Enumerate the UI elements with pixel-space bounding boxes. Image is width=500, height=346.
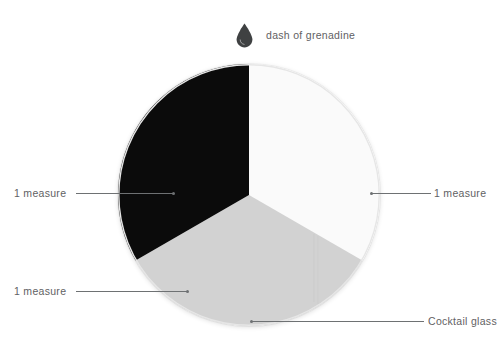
- leader-dot-black-segment: [172, 192, 175, 195]
- callout-label-cocktail-glass: Cocktail glass: [428, 315, 497, 327]
- leader-line-white-segment: [371, 193, 431, 194]
- cocktail-recipe-diagram: dash of grenadine 1 measure 1 measure 1 …: [0, 0, 500, 346]
- leader-line-gray-segment: [76, 291, 188, 292]
- droplet-label: dash of grenadine: [266, 29, 355, 41]
- pie-chart: [118, 64, 380, 326]
- callout-label-black-segment: 1 measure: [14, 187, 66, 199]
- leader-dot-white-segment: [370, 192, 373, 195]
- leader-dot-gray-segment: [186, 290, 189, 293]
- callout-label-gray-segment: 1 measure: [14, 285, 66, 297]
- callout-label-white-segment: 1 measure: [434, 187, 486, 199]
- leader-line-black-segment: [76, 193, 174, 194]
- droplet-icon: [236, 23, 253, 48]
- pie-slices: [118, 64, 380, 326]
- leader-line-cocktail-glass: [252, 321, 424, 322]
- leader-dot-cocktail-glass: [250, 320, 253, 323]
